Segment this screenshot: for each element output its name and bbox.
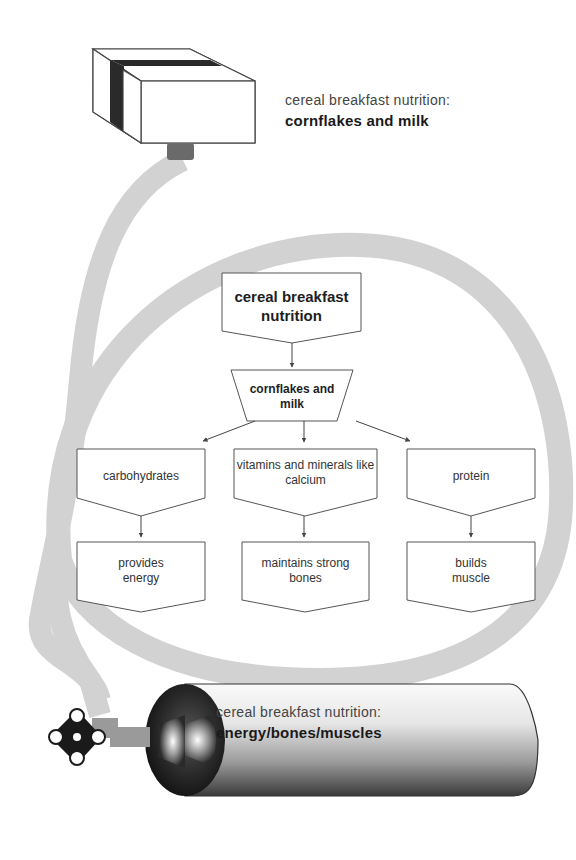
bottom-caption-line2: energy/bones/muscles [216, 724, 382, 741]
plug-knob-icon [49, 709, 105, 765]
food-node-label: cornflakes and milk [241, 382, 343, 412]
nutrient-label: vitamins and minerals like calcium [234, 458, 377, 488]
top-caption-line1: cereal breakfast nutrition: [285, 92, 450, 108]
bottom-caption-line1: cereal breakfast nutrition: [216, 704, 381, 720]
cereal-box-icon [93, 49, 255, 160]
nutrient-label: protein [407, 469, 535, 484]
connecting-tube [40, 160, 562, 715]
benefit-label: builds muscle [440, 556, 502, 586]
top-caption-line2: cornflakes and milk [285, 112, 429, 129]
nutrient-label: carbohydrates [77, 469, 205, 484]
benefit-label: provides energy [100, 556, 182, 586]
root-node-label: cereal breakfast nutrition [222, 288, 361, 326]
benefit-label: maintains strong bones [258, 556, 353, 586]
